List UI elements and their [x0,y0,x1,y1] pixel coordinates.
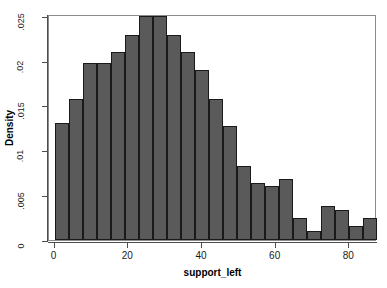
y-axis-tick [42,106,47,107]
histogram-bar [307,231,321,240]
histogram-bar [125,35,139,240]
y-axis-tick-label-text: .015 [15,103,27,121]
y-axis-tick-label: .015 [0,100,41,112]
histogram-bar [321,206,335,240]
x-axis-tick-label: 20 [112,250,142,261]
histogram-bar [139,16,153,240]
histogram-bar [69,99,83,240]
histogram-bar [167,35,181,240]
x-axis-tick [127,243,128,248]
histogram-bar [83,63,97,240]
y-axis-title-label: Density [4,110,15,146]
y-axis-tick-label-text: 0 [14,243,26,248]
histogram-bar [237,166,251,240]
x-axis-tick-label: 60 [260,250,290,261]
y-axis-tick-label: .005 [0,190,41,202]
x-axis-tick-label: 40 [186,250,216,261]
histogram-bar [153,16,167,240]
x-axis-line [48,242,377,243]
y-axis-tick-label: .01 [0,145,41,157]
y-axis-tick [42,196,47,197]
y-axis-tick [42,151,47,152]
histogram-figure: Density 0.005.01.015.02.025 020406080 su… [0,0,387,288]
histogram-bar [335,210,349,240]
histogram-bar [111,52,125,240]
histogram-bar [251,183,265,240]
y-axis-tick [42,62,47,63]
y-axis-tick-label: .025 [0,11,41,23]
histogram-bar [55,123,69,240]
histogram-bar [223,126,237,240]
histogram-bar [265,186,279,240]
histogram-bar [97,63,111,240]
y-axis-tick [42,241,47,242]
x-axis-tick [54,243,55,248]
y-axis-tick [42,17,47,18]
y-axis-tick-label-text: .005 [15,192,27,210]
histogram-bar [209,99,223,240]
x-axis-tick [275,243,276,248]
histogram-bar [293,218,307,240]
y-axis-tick-label-text: .02 [14,60,26,73]
x-axis-tick-label: 0 [39,250,69,261]
y-axis-tick-label: .02 [0,56,41,68]
x-axis-tick-label: 80 [333,250,363,261]
x-axis-tick [348,243,349,248]
histogram-bar [279,179,293,240]
y-axis-tick-label: 0 [0,235,41,247]
y-axis-tick-label-text: .01 [14,150,26,163]
y-axis-tick-label-text: .025 [15,13,27,31]
histogram-bar [195,70,209,240]
x-axis-title: support_left [48,267,377,278]
plot-area [48,15,376,241]
histogram-bar [363,218,377,240]
histogram-bar [349,226,363,240]
histogram-bar [181,52,195,240]
histogram-bars [49,16,375,240]
x-axis-tick [201,243,202,248]
